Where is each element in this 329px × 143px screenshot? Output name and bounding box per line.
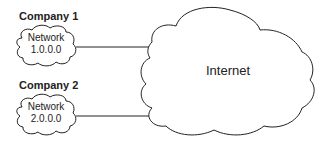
company-2-network-label: Network 2.0.0.0 — [17, 101, 75, 125]
company-1-network-label: Network 1.0.0.0 — [17, 32, 75, 56]
company-2-title: Company 2 — [19, 79, 78, 91]
company-1-network-address: 1.0.0.0 — [17, 44, 75, 56]
company-1-title: Company 1 — [19, 10, 78, 22]
network-diagram: Company 1 Network 1.0.0.0 Company 2 Netw… — [0, 0, 329, 143]
internet-label: Internet — [206, 63, 250, 78]
company-2-network-address: 2.0.0.0 — [17, 113, 75, 125]
company-1-network-text: Network — [17, 32, 75, 44]
company-2-network-text: Network — [17, 101, 75, 113]
